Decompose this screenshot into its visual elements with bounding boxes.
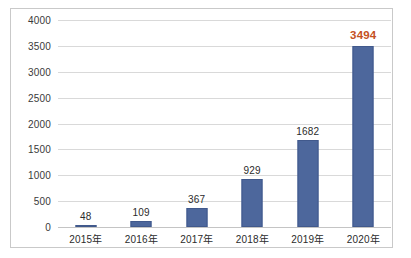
y-tick-label-1000: 1000 — [28, 170, 51, 181]
bar-2018年[interactable] — [242, 179, 263, 227]
bar-value-label-2016年: 109 — [133, 207, 150, 218]
bar-group: 929 — [225, 20, 281, 227]
bar-group: 1682 — [280, 20, 336, 227]
x-tick-label-2019年: 2019年 — [291, 231, 324, 246]
x-tick-label-2015年: 2015年 — [69, 231, 102, 246]
y-tick-label-0: 0 — [45, 222, 51, 233]
bar-value-label-2019年: 1682 — [296, 126, 319, 137]
gridline-0 — [58, 227, 391, 228]
bar-2016年[interactable] — [131, 221, 152, 227]
bar-2017年[interactable] — [186, 208, 207, 227]
bar-value-label-2018年: 929 — [244, 165, 261, 176]
y-tick-label-500: 500 — [34, 196, 51, 207]
bar-value-label-2017年: 367 — [188, 194, 205, 205]
bars-layer: 4810936792916823494 — [58, 20, 391, 227]
x-tick-label-2017年: 2017年 — [180, 231, 213, 246]
bar-2015年[interactable] — [75, 225, 96, 227]
chart-frame: 05001000150020002500300035004000 4810936… — [10, 8, 393, 248]
plot-area: 05001000150020002500300035004000 4810936… — [58, 20, 391, 227]
y-tick-label-3500: 3500 — [28, 40, 51, 51]
x-axis-tick-labels: 2015年2016年2017年2018年2019年2020年 — [58, 231, 391, 249]
bar-chart-figure: 05001000150020002500300035004000 4810936… — [0, 0, 411, 258]
y-tick-label-2000: 2000 — [28, 118, 51, 129]
y-tick-label-4000: 4000 — [28, 15, 51, 26]
bar-2019年[interactable] — [297, 140, 318, 227]
y-tick-label-1500: 1500 — [28, 144, 51, 155]
x-tick-label-2018年: 2018年 — [236, 231, 269, 246]
bar-group: 48 — [58, 20, 114, 227]
bar-group: 3494 — [336, 20, 392, 227]
bar-value-label-2015年: 48 — [80, 211, 92, 222]
bar-group: 367 — [169, 20, 225, 227]
bar-2020年[interactable] — [353, 46, 374, 227]
x-tick-label-2016年: 2016年 — [125, 231, 158, 246]
x-tick-label-2020年: 2020年 — [347, 231, 380, 246]
y-tick-label-2500: 2500 — [28, 92, 51, 103]
bar-group: 109 — [114, 20, 170, 227]
bar-value-label-2020年: 3494 — [350, 29, 376, 41]
y-tick-label-3000: 3000 — [28, 66, 51, 77]
